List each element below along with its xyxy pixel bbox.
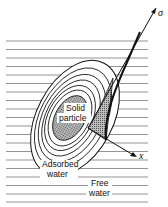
label-particle: particle — [59, 113, 87, 123]
label-axis-x: x — [138, 150, 144, 161]
label-solid: Solid — [66, 103, 85, 113]
label-adsorbed-water: water — [46, 169, 68, 179]
label-free: Free — [91, 178, 109, 188]
label-free-water: water — [88, 188, 110, 198]
label-adsorbed: Adsorbed — [42, 159, 79, 169]
adsorbed-water-diagram: Solid particle Adsorbed water Free water… — [0, 0, 168, 207]
label-axis-sigma: σ — [158, 7, 164, 18]
x-arrowhead-icon — [130, 152, 137, 157]
sigma-arrowhead-icon — [151, 8, 156, 14]
